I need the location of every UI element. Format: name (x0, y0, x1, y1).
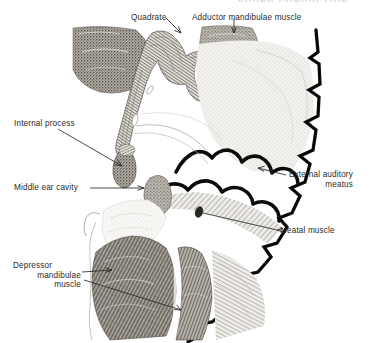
label-adductor-mandibulae-muscle-line-0: Adductor mandibulae muscle (192, 13, 302, 22)
label-middle-ear-cavity-line-0: Middle ear cavity (14, 183, 78, 192)
internal-process (113, 151, 136, 188)
label-external-auditory-meatus: External auditory meatus (289, 170, 353, 189)
label-external-auditory-meatus-line-1: meatus (289, 180, 353, 190)
label-quadrate-line-0: Quadrate (131, 13, 166, 22)
label-depressor-mandibulae-muscle-line-1: mandibulae (13, 271, 81, 281)
label-depressor-mandibulae-muscle-line-0: Depressor (13, 261, 81, 271)
label-external-auditory-meatus-line-0: External auditory (289, 170, 353, 180)
label-internal-process-line-0: Internal process (14, 119, 75, 128)
label-depressor-mandibulae-muscle-line-2: muscle (13, 280, 81, 290)
label-meatal-muscle: Meatal muscle (280, 226, 335, 236)
label-quadrate: Quadrate (131, 13, 166, 23)
label-internal-process: Internal process (14, 119, 75, 129)
label-middle-ear-cavity: Middle ear cavity (14, 183, 78, 193)
label-depressor-mandibulae-muscle: Depressor mandibulae muscle (13, 261, 81, 290)
label-adductor-mandibulae-muscle: Adductor mandibulae muscle (192, 13, 302, 23)
label-meatal-muscle-line-0: Meatal muscle (280, 226, 335, 235)
